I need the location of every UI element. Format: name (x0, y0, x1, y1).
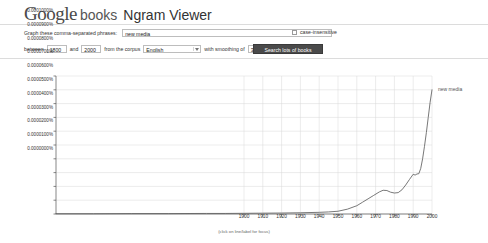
y-tick-label: 0.0000100% (27, 132, 53, 137)
y-tick-label: 0.0000400% (27, 90, 53, 95)
chart-plot-svg (0, 66, 488, 226)
x-tick-label: 1950 (333, 214, 344, 219)
case-insensitive-checkbox[interactable] (292, 30, 297, 35)
x-tick-label: 1910 (257, 214, 268, 219)
case-insensitive-label: case-insensitive (300, 29, 337, 35)
options-row: between 1800 and 2000 from the corpus En… (24, 45, 264, 53)
x-tick-label: 1990 (408, 214, 419, 219)
ngram-chart[interactable] (0, 66, 488, 226)
corpus-select-divider (193, 47, 194, 51)
search-button[interactable]: Search lots of books (253, 44, 323, 54)
x-tick-label: 1900 (239, 214, 250, 219)
corpus-label: from the corpus (104, 46, 140, 52)
series-label[interactable]: new media (438, 86, 462, 92)
chevron-down-icon (195, 48, 199, 51)
x-tick-label: 1960 (351, 214, 362, 219)
x-tick-label: 1970 (370, 214, 381, 219)
logo-books-text: books (80, 7, 117, 23)
x-tick-label: 1980 (389, 214, 400, 219)
y-tick-label: 0.0000200% (27, 118, 53, 123)
y-tick-label: 0.0000600% (27, 63, 53, 68)
end-year-input[interactable]: 2000 (81, 45, 101, 53)
case-insensitive-control[interactable]: case-insensitive (292, 29, 337, 35)
phrases-row: Graph these comma-separated phrases: new… (24, 29, 335, 37)
corpus-select[interactable]: English (143, 45, 201, 53)
form-divider (0, 58, 488, 59)
y-axis-labels: 0.0000000%0.0000100%0.0000200%0.0000300%… (0, 0, 56, 160)
y-tick-label: 0.0000500% (27, 77, 53, 82)
and-label: and (70, 46, 79, 52)
y-tick-label: 0.0000800% (27, 35, 53, 40)
y-tick-label: 0.0001000% (27, 8, 53, 13)
ngram-viewer-page: GooglebooksNgram Viewer Graph these comm… (0, 0, 488, 243)
x-tick-label: 2000 (427, 214, 438, 219)
smoothing-label: with smoothing of (204, 46, 244, 52)
x-tick-label: 1920 (276, 214, 287, 219)
y-tick-label: 0.0000900% (27, 21, 53, 26)
y-tick-label: 0.0000000% (27, 146, 53, 151)
header-divider (0, 24, 488, 25)
x-tick-label: 1940 (314, 214, 325, 219)
y-tick-label: 0.0000300% (27, 104, 53, 109)
x-tick-label: 1930 (295, 214, 306, 219)
page-title: Ngram Viewer (123, 7, 211, 23)
y-tick-label: 0.0000700% (27, 49, 53, 54)
chart-footer-note: (click on line/label for focus) (0, 229, 488, 234)
corpus-select-value: English (146, 47, 163, 53)
